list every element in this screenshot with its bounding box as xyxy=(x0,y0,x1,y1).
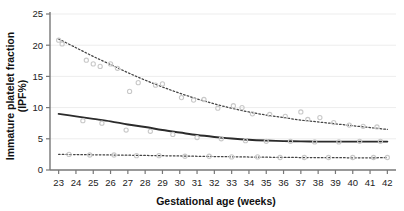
x-tick-label: 29 xyxy=(157,177,168,188)
x-axis-title: Gestational age (weeks) xyxy=(156,195,276,207)
x-tick-label: 30 xyxy=(174,177,185,188)
x-tick-label: 28 xyxy=(140,177,151,188)
x-tick-label: 40 xyxy=(347,177,358,188)
x-tick-label: 32 xyxy=(209,177,220,188)
x-tick-label: 34 xyxy=(244,177,255,188)
y-axis-title-line1: Immature platelet fraction xyxy=(4,32,16,160)
x-tick-label: 39 xyxy=(330,177,341,188)
y-tick-label: 10 xyxy=(32,102,43,113)
y-tick-label: 5 xyxy=(38,133,43,144)
x-tick-label: 23 xyxy=(53,177,64,188)
x-tick-label: 41 xyxy=(365,177,376,188)
x-tick-label: 36 xyxy=(278,177,289,188)
x-tick-label: 37 xyxy=(296,177,307,188)
x-tick-label: 25 xyxy=(88,177,99,188)
y-tick-label: 20 xyxy=(32,40,43,51)
x-tick-label: 35 xyxy=(261,177,272,188)
chart-canvas: 2324252627282930313233343536373839404142… xyxy=(0,0,404,211)
y-axis-title-line2: (IPF%) xyxy=(16,80,28,113)
x-tick-label: 24 xyxy=(71,177,82,188)
x-tick-label: 27 xyxy=(123,177,134,188)
y-tick-label: 0 xyxy=(38,164,43,175)
x-tick-label: 26 xyxy=(105,177,116,188)
chart-container: 2324252627282930313233343536373839404142… xyxy=(0,0,404,211)
y-tick-label: 25 xyxy=(32,8,43,19)
x-tick-label: 31 xyxy=(192,177,203,188)
x-tick-label: 42 xyxy=(382,177,393,188)
y-tick-label: 15 xyxy=(32,71,43,82)
x-tick-label: 38 xyxy=(313,177,324,188)
x-tick-label: 33 xyxy=(226,177,237,188)
